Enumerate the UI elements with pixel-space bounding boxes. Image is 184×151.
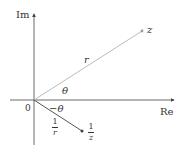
complex-plane-diagram: Im Re 0 z r θ −θ 1 r 1 z xyxy=(0,0,184,151)
point-z xyxy=(141,30,144,33)
point-reciprocal xyxy=(81,130,84,133)
reciprocal-modulus-label: 1 r xyxy=(52,118,58,137)
point-z-label: z xyxy=(147,25,152,35)
imaginary-axis-label: Im xyxy=(16,10,29,20)
ray-to-z xyxy=(34,31,142,100)
angle-neg-theta-label: −θ xyxy=(49,104,63,114)
reciprocal-point-label: 1 z xyxy=(88,123,94,142)
angle-theta-label: θ xyxy=(62,86,68,96)
modulus-r-label: r xyxy=(84,55,89,65)
real-axis-label: Re xyxy=(160,107,173,117)
origin-label: 0 xyxy=(25,104,31,113)
